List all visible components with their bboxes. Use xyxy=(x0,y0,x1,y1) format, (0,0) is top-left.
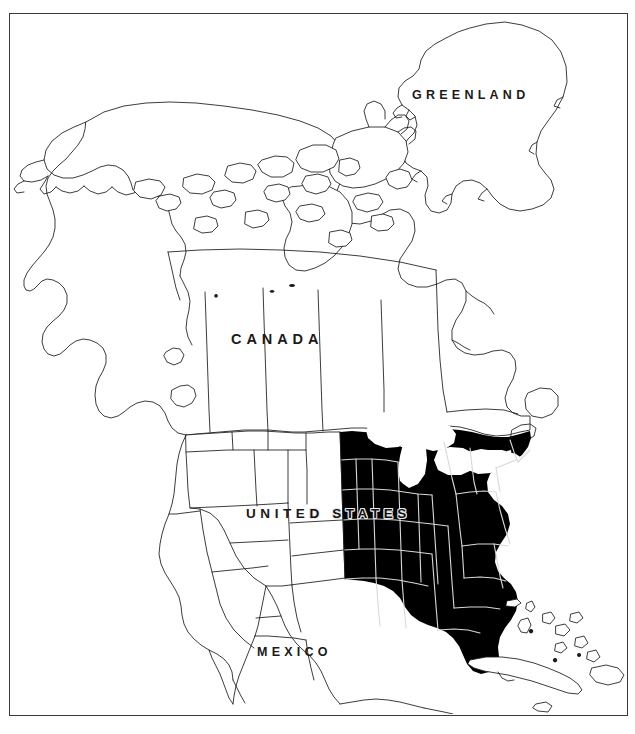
map-figure: GREENLAND CANADA UNITED STATES MEXICO xyxy=(0,0,635,734)
mexico-outline xyxy=(233,586,424,708)
shaded-range-region xyxy=(340,405,531,674)
north-america-map xyxy=(0,0,635,734)
greenland-outline xyxy=(393,22,567,213)
